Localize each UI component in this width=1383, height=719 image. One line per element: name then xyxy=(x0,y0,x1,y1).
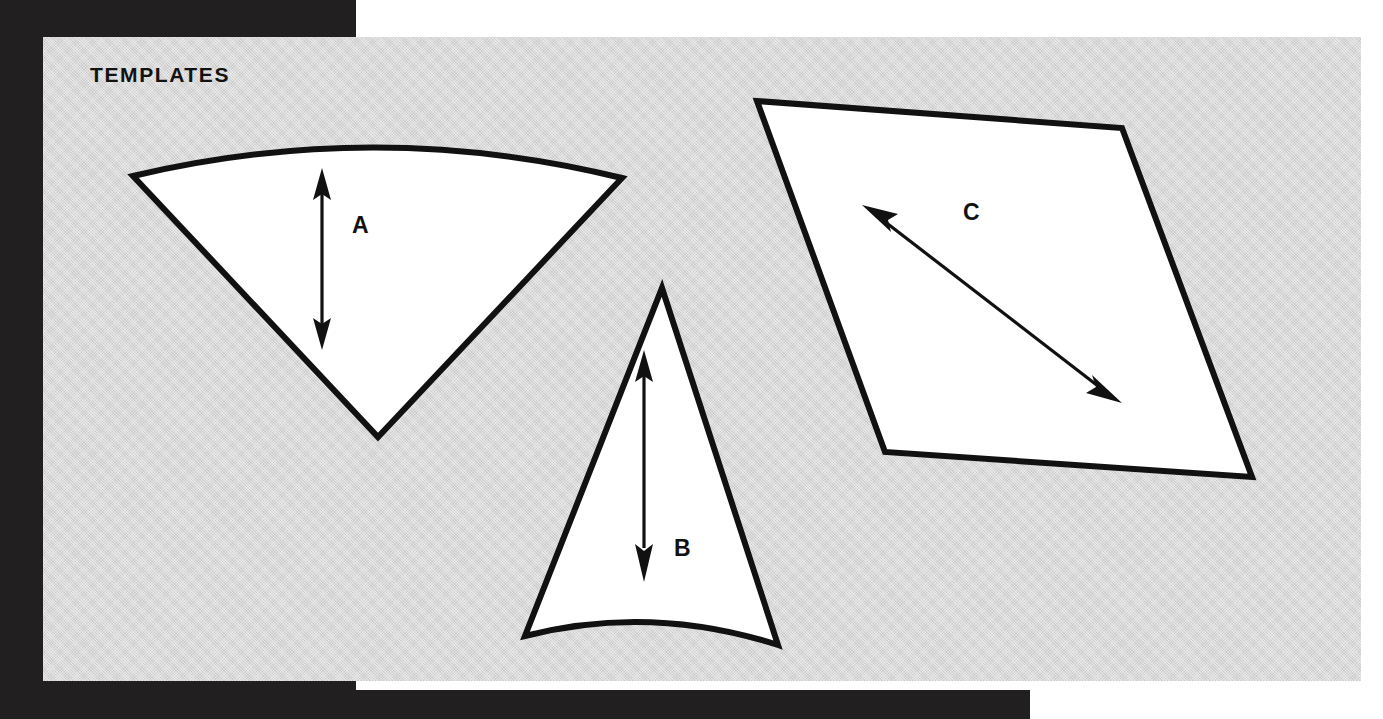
dark-frame-bottom-band xyxy=(0,690,1030,719)
page-title: TEMPLATES xyxy=(90,63,230,87)
templates-paper-plate: TEMPLATES xyxy=(43,37,1361,681)
templates-plate-stage: TEMPLATES A B xyxy=(0,0,1383,719)
